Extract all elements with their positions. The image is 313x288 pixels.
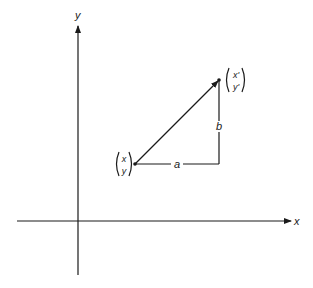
vector-diagram: y x a b x y x' y' bbox=[0, 0, 313, 288]
x-axis-label: x bbox=[293, 215, 300, 227]
start-y: y bbox=[121, 166, 127, 176]
end-point bbox=[217, 78, 221, 82]
start-point bbox=[133, 162, 137, 166]
right-paren bbox=[129, 152, 132, 176]
leg-a-label: a bbox=[174, 158, 180, 170]
y-axis-label: y bbox=[74, 9, 82, 21]
displacement-vector bbox=[135, 81, 218, 164]
left-paren bbox=[117, 152, 120, 176]
end-y: y' bbox=[232, 82, 240, 92]
end-point-label: x' y' bbox=[227, 68, 245, 92]
end-x: x' bbox=[232, 70, 240, 80]
leg-b-label: b bbox=[216, 120, 222, 132]
right-paren bbox=[242, 68, 245, 92]
start-point-label: x y bbox=[117, 152, 132, 176]
start-x: x bbox=[121, 154, 127, 164]
left-paren bbox=[227, 68, 230, 92]
